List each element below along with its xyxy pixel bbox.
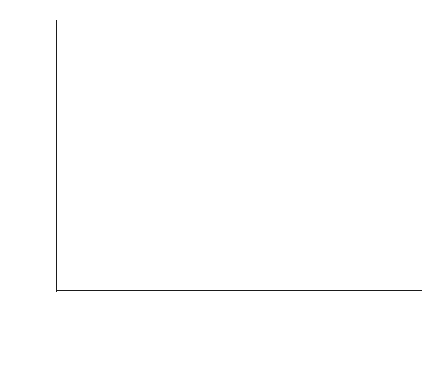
y-axis-line	[56, 20, 57, 292]
bar-chart	[0, 0, 427, 369]
x-axis-line	[56, 290, 422, 291]
